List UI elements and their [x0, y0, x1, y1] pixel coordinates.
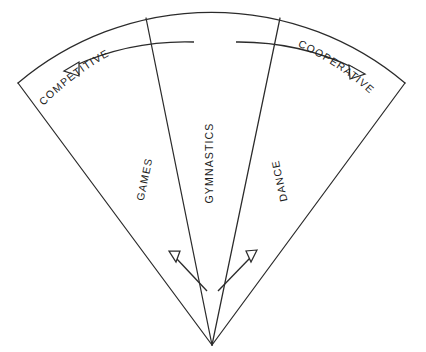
sector-label-dance: DANCE: [269, 159, 290, 203]
axis-label-cooperative: COOPERATIVE: [297, 37, 378, 96]
sector-label-gymnastics-text: GYMNASTICS: [203, 123, 215, 204]
fan-left-edge: [18, 83, 212, 345]
right-inner-arrow-shaft: [218, 258, 250, 291]
axis-label-competitive: COMPETITIVE: [36, 47, 111, 108]
axis-label-cooperative-text: COOPERATIVE: [297, 37, 378, 96]
sector-label-gymnastics: GYMNASTICS: [203, 123, 215, 204]
fan-diagram: COMPETITIVE COOPERATIVE GAMES GYMNASTICS…: [0, 0, 426, 352]
fan-diagram-canvas: COMPETITIVE COOPERATIVE GAMES GYMNASTICS…: [0, 0, 426, 352]
axis-label-competitive-text: COMPETITIVE: [36, 47, 111, 108]
divider-gymnastics-dance: [212, 18, 280, 345]
sector-label-games-text: GAMES: [134, 157, 155, 202]
left-inner-arrow-shaft: [176, 258, 207, 291]
fan-right-edge: [212, 83, 405, 345]
sector-label-dance-text: DANCE: [269, 159, 290, 203]
sector-label-games: GAMES: [134, 157, 155, 202]
inner-radial-arrows: [169, 250, 257, 291]
